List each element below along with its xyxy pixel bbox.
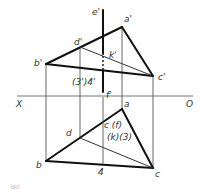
axis-label-o: O	[186, 99, 193, 109]
label-c-f: c (f)	[104, 120, 122, 130]
figure-caption-text: 图 …	[10, 184, 195, 189]
label-c: c	[155, 169, 160, 179]
label-k-3: (k)(3)	[107, 132, 132, 142]
projection-diagram: e' a' d' k' b' c' (3')4' f' X O a c (f) …	[0, 0, 201, 189]
label-a-prime: a'	[124, 14, 132, 24]
label-b-prime: b'	[34, 58, 42, 68]
edge-a-c-front	[122, 27, 153, 76]
figure-caption: 图 …	[10, 184, 195, 189]
axis-label-x: X	[15, 99, 23, 109]
label-d-prime: d'	[74, 37, 82, 47]
label-f-prime: f'	[106, 90, 112, 100]
label-d: d	[66, 128, 72, 138]
label-3-4-prime: (3')4'	[72, 77, 95, 87]
label-4: 4	[98, 167, 104, 177]
label-k-prime: k'	[109, 50, 117, 60]
label-c-prime: c'	[158, 72, 165, 82]
label-e-prime: e'	[92, 7, 100, 17]
label-b: b	[36, 160, 42, 170]
label-a: a	[124, 99, 130, 109]
